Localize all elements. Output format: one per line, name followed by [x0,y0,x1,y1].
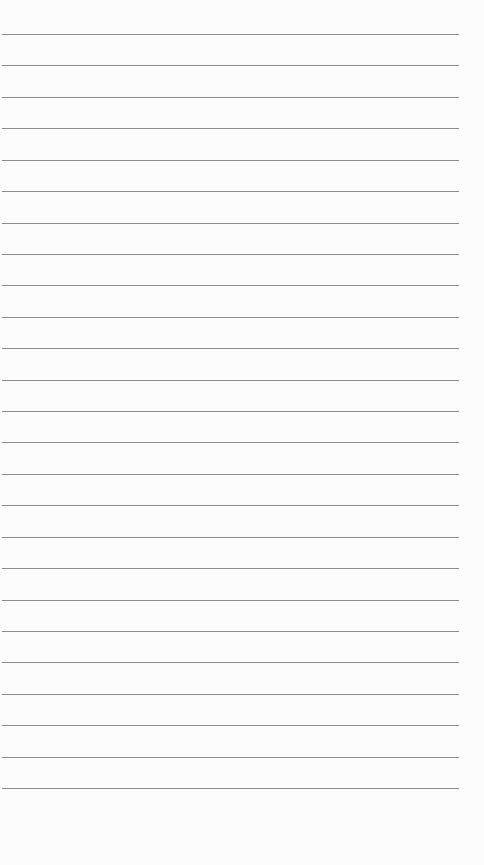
ruled-line [2,285,459,286]
lined-paper-sheet [0,0,484,865]
ruled-line [2,380,459,381]
ruled-line [2,662,459,663]
ruled-line [2,97,459,98]
ruled-line [2,631,459,632]
ruled-line [2,411,459,412]
ruled-line [2,788,459,789]
ruled-line [2,34,459,35]
ruled-line [2,505,459,506]
ruled-line [2,757,459,758]
ruled-line [2,537,459,538]
ruled-line [2,128,459,129]
ruled-line [2,191,459,192]
ruled-line [2,254,459,255]
ruled-line [2,348,459,349]
ruled-line [2,474,459,475]
ruled-line [2,600,459,601]
ruled-line [2,223,459,224]
ruled-line [2,568,459,569]
ruled-line [2,65,459,66]
ruled-line [2,694,459,695]
ruled-line [2,160,459,161]
ruled-line [2,442,459,443]
ruled-line [2,317,459,318]
ruled-line [2,725,459,726]
